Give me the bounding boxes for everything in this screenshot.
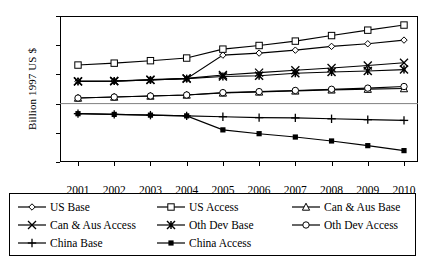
series-can-aus-base — [74, 85, 407, 101]
series-oth-dev-access — [75, 83, 407, 101]
x-tick-mark — [150, 162, 151, 166]
x-tick-mark — [114, 162, 115, 166]
legend-item[interactable]: US Base — [17, 198, 156, 216]
x-tick-mark — [259, 162, 260, 166]
legend-label: US Access — [189, 201, 239, 214]
legend-label: China Base — [50, 237, 103, 250]
x-tick-mark — [223, 162, 224, 166]
legend-item[interactable]: Can & Aus Access — [17, 216, 156, 234]
y-tick-mark — [56, 162, 60, 163]
legend-row: China BaseChina Access — [17, 234, 410, 252]
legend-item[interactable]: US Access — [156, 198, 291, 216]
plot-area: Billion 1997 US $ 6040200-20-40 20012002… — [60, 16, 418, 162]
series-china-base — [74, 109, 408, 124]
series-us-access — [75, 22, 407, 68]
legend-label: Oth Dev Access — [324, 219, 398, 232]
legend-marker-open-triangle-icon — [291, 200, 321, 214]
legend-marker-cross-x-icon — [17, 218, 47, 232]
legend-marker-open-square-icon — [156, 200, 186, 214]
y-axis-title: Billion 1997 US $ — [26, 16, 44, 162]
legend-item[interactable]: Oth Dev Base — [156, 216, 291, 234]
chart-series-canvas — [60, 16, 418, 162]
legend-marker-filled-star-icon — [156, 218, 186, 232]
y-tick-mark — [56, 104, 60, 105]
chart-legend: US BaseUS AccessCan & Aus BaseCan & Aus … — [9, 193, 416, 256]
series-oth-dev-base — [74, 66, 408, 86]
legend-label: China Access — [189, 237, 251, 250]
legend-marker-plus-icon — [17, 236, 47, 250]
y-tick-mark — [56, 16, 60, 17]
legend-item[interactable]: Can & Aus Base — [291, 198, 410, 216]
legend-item[interactable]: China Access — [156, 234, 291, 252]
x-tick-mark — [295, 162, 296, 166]
y-tick-mark — [56, 74, 60, 75]
line-chart-figure: Billion 1997 US $ 6040200-20-40 20012002… — [0, 0, 425, 267]
x-tick-mark — [78, 162, 79, 166]
legend-label: US Base — [50, 201, 90, 214]
legend-row: Can & Aus AccessOth Dev BaseOth Dev Acce… — [17, 216, 410, 234]
legend-item[interactable]: China Base — [17, 234, 156, 252]
legend-marker-filled-square-icon — [156, 236, 186, 250]
legend-row: US BaseUS AccessCan & Aus Base — [17, 198, 410, 216]
legend-label: Can & Aus Access — [50, 219, 136, 232]
x-tick-mark — [187, 162, 188, 166]
legend-label: Oth Dev Base — [189, 219, 254, 232]
legend-grid: US BaseUS AccessCan & Aus BaseCan & Aus … — [17, 198, 410, 252]
y-tick-mark — [56, 133, 60, 134]
legend-label: Can & Aus Base — [324, 201, 400, 214]
x-tick-mark — [332, 162, 333, 166]
legend-item[interactable]: Oth Dev Access — [291, 216, 410, 234]
legend-marker-open-circle-icon — [291, 218, 321, 232]
x-tick-mark — [404, 162, 405, 166]
y-tick-mark — [56, 45, 60, 46]
x-tick-mark — [368, 162, 369, 166]
series-us-base — [75, 37, 407, 85]
legend-marker-open-diamond-icon — [17, 200, 47, 214]
